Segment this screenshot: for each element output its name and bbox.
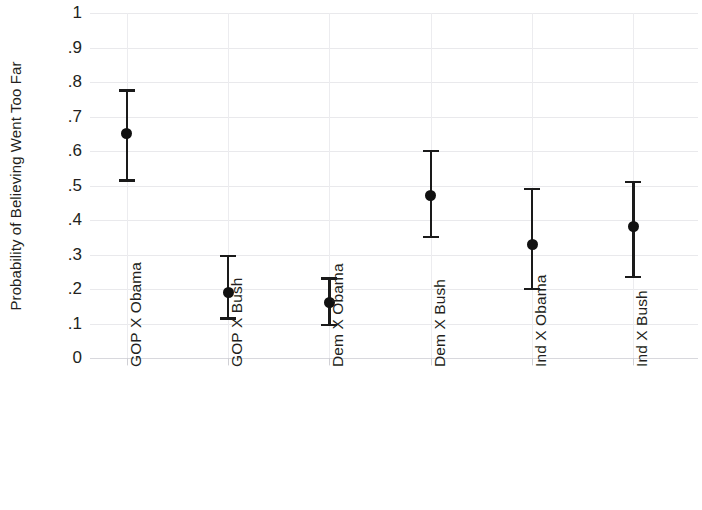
y-axis-tick-label: .1	[30, 315, 82, 332]
x-axis-tick-label-text: Ind X Bush	[633, 290, 651, 367]
gridline-horizontal	[90, 151, 698, 152]
gridline-horizontal	[90, 82, 698, 83]
gridline-horizontal	[90, 358, 698, 359]
x-axis-tick-label: Ind X Bush	[624, 367, 642, 507]
y-axis-tick-label: .2	[30, 280, 82, 297]
x-axis-tick-label: GOP X Bush	[219, 367, 237, 507]
y-axis-tick-label: .6	[30, 142, 82, 159]
x-axis-tick-label-text: Dem X Bush	[431, 279, 449, 367]
gridline-horizontal	[90, 186, 698, 187]
gridline-horizontal	[90, 48, 698, 49]
y-axis-tick-label: .8	[30, 73, 82, 90]
gridline-horizontal	[90, 255, 698, 256]
gridline-horizontal	[90, 117, 698, 118]
x-axis-tick-label: Dem X Obama	[320, 367, 338, 507]
error-bar-cap-upper	[220, 255, 236, 257]
y-axis-tick-label: .9	[30, 39, 82, 56]
chart-figure: Probability of Believing Went Too Far 1.…	[0, 0, 702, 510]
error-bar-cap-lower	[119, 179, 135, 181]
y-axis-tick-label: 1	[30, 4, 82, 21]
error-bar-cap-upper	[524, 188, 540, 190]
data-point-marker	[121, 128, 132, 139]
data-point-marker	[628, 221, 639, 232]
y-axis-tick-label: .4	[30, 211, 82, 228]
x-axis-tick-label: GOP X Obama	[118, 367, 136, 507]
data-point-marker	[425, 190, 436, 201]
error-bar-cap-lower	[625, 276, 641, 278]
gridline-horizontal	[90, 220, 698, 221]
y-axis-title: Probability of Believing Went Too Far	[0, 0, 30, 372]
x-axis-tick-label-text: GOP X Bush	[228, 278, 246, 367]
error-bar-cap-upper	[423, 150, 439, 152]
y-axis-tick-label: .3	[30, 246, 82, 263]
x-axis-tick-label-text: GOP X Obama	[127, 262, 145, 367]
error-bar-cap-upper	[119, 89, 135, 91]
error-bar-cap-lower	[423, 236, 439, 238]
x-axis-tick-label-text: Dem X Obama	[329, 263, 347, 367]
y-axis-tick-label: 0	[30, 349, 82, 366]
gridline-horizontal	[90, 13, 698, 14]
x-axis-tick-label: Ind X Obama	[523, 367, 541, 507]
data-point-marker	[527, 239, 538, 250]
x-axis-tick-label-text: Ind X Obama	[532, 275, 550, 367]
y-axis-tick-label: .5	[30, 177, 82, 194]
y-axis-tick-label: .7	[30, 108, 82, 125]
gridline-horizontal	[90, 289, 698, 290]
x-axis-tick-label: Dem X Bush	[422, 367, 440, 507]
plot-area	[90, 13, 698, 358]
error-bar-cap-upper	[625, 181, 641, 183]
gridline-horizontal	[90, 324, 698, 325]
